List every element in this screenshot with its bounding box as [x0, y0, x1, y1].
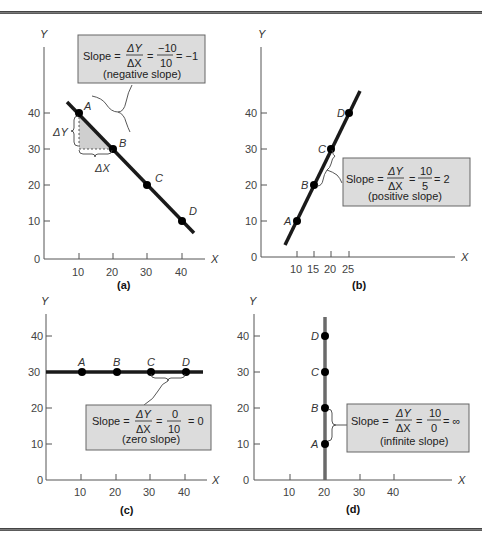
panel-caption: (b): [352, 279, 366, 291]
svg-text:Slope =: Slope =: [83, 50, 121, 62]
negative-slope-line: [67, 102, 194, 233]
svg-text:A: A: [83, 100, 91, 112]
svg-text:D: D: [337, 107, 345, 119]
x-axis-label: X: [211, 474, 220, 486]
svg-text:= 0: = 0: [188, 415, 204, 427]
svg-text:20: 20: [324, 263, 336, 275]
svg-text:D: D: [311, 330, 319, 342]
y-ticks: 40 30 20 10 0: [28, 107, 50, 265]
svg-text:=: =: [156, 415, 162, 427]
svg-text:20: 20: [318, 486, 330, 498]
x-axis-label: X: [210, 253, 219, 265]
svg-text:ΔY: ΔY: [126, 42, 142, 54]
y-axis-label: Y: [258, 28, 266, 40]
svg-text:ΔY: ΔY: [135, 408, 151, 420]
x-ticks: 10 20 30 40: [283, 474, 399, 498]
svg-text:(zero slope): (zero slope): [122, 433, 180, 445]
callout-brace: [92, 85, 132, 132]
svg-text:= −1: = −1: [176, 50, 198, 62]
svg-text:30: 30: [237, 366, 249, 378]
svg-text:10: 10: [72, 266, 84, 278]
delta-x-brace: [79, 150, 112, 157]
svg-text:C: C: [318, 143, 326, 155]
svg-text:C: C: [147, 356, 155, 368]
svg-text:10: 10: [28, 215, 40, 227]
panel-c: Y X 40 30 20 10 0 10 20 30 40 (c) A B C …: [28, 295, 220, 516]
svg-text:(positive slope): (positive slope): [368, 190, 442, 202]
svg-text:10: 10: [429, 407, 441, 419]
panel-caption: (d): [346, 503, 360, 515]
slope-box: Slope = ΔY ΔX = −10 10 = −1 (negative sl…: [78, 35, 205, 83]
svg-text:10: 10: [31, 438, 43, 450]
delta-x-label: ΔX: [94, 162, 110, 174]
x-ticks: 10 20 30 40: [74, 474, 190, 498]
svg-text:D: D: [189, 205, 197, 217]
svg-text:40: 40: [31, 330, 43, 342]
svg-text:C: C: [155, 172, 163, 184]
panel-a: Y X 40 30 20 10 0 10 20 30 40 (a) A: [28, 28, 219, 291]
svg-text:30: 30: [353, 486, 365, 498]
svg-text:= 2: = 2: [434, 173, 450, 185]
callout-brace: [328, 409, 348, 441]
y-axis-label: Y: [40, 28, 48, 40]
svg-text:= ∞: = ∞: [443, 415, 460, 427]
svg-text:40: 40: [387, 486, 399, 498]
svg-text:10: 10: [74, 486, 86, 498]
svg-text:B: B: [113, 356, 120, 368]
svg-text:20: 20: [245, 179, 257, 191]
x-axis-label: X: [457, 474, 466, 486]
svg-text:A: A: [77, 356, 85, 368]
svg-text:10: 10: [237, 438, 249, 450]
callout-brace: [144, 374, 185, 405]
svg-text:15: 15: [307, 263, 319, 275]
svg-text:40: 40: [175, 266, 187, 278]
svg-text:ΔY: ΔY: [387, 165, 403, 177]
y-ticks: 40 30 20 10 0: [245, 107, 267, 263]
svg-text:(infinite slope): (infinite slope): [380, 435, 448, 447]
y-ticks: 40 30 20 10 0: [237, 330, 260, 486]
svg-text:30: 30: [140, 266, 152, 278]
panel-d: Y X 40 30 20 10 0 10 20 30 40 (d) A B C …: [237, 295, 469, 515]
y-axis-label: Y: [41, 295, 49, 307]
svg-text:A: A: [310, 438, 318, 450]
svg-text:0: 0: [37, 474, 43, 486]
svg-text:B: B: [119, 137, 126, 149]
slope-diagram: Y X 40 30 20 10 0 10 20 30 40 (a) A: [0, 0, 493, 543]
svg-text:0: 0: [172, 408, 178, 420]
y-axis-label: Y: [249, 295, 257, 307]
svg-text:0: 0: [243, 474, 249, 486]
svg-text:10: 10: [290, 263, 302, 275]
svg-text:10: 10: [245, 215, 257, 227]
svg-text:ΔX: ΔX: [396, 422, 411, 434]
svg-text:20: 20: [31, 402, 43, 414]
panel-caption: (c): [120, 504, 134, 516]
y-ticks: 40 30 20 10 0: [28, 330, 52, 486]
data-points: A B C D: [75, 100, 197, 225]
svg-text:=: =: [147, 50, 153, 62]
delta-y-brace: [71, 116, 78, 146]
x-axis-label: X: [460, 251, 469, 263]
svg-text:B: B: [301, 179, 308, 191]
svg-text:0: 0: [431, 422, 437, 434]
svg-text:30: 30: [28, 143, 40, 155]
svg-text:ΔY: ΔY: [395, 407, 411, 419]
svg-text:0: 0: [251, 251, 257, 263]
x-ticks: 10 20 30 40: [72, 253, 187, 278]
svg-text:B: B: [311, 402, 318, 414]
delta-y-label: ΔY: [52, 126, 68, 138]
svg-text:D: D: [182, 356, 190, 368]
svg-text:10: 10: [283, 486, 295, 498]
panel-caption: (a): [117, 279, 131, 291]
slope-box: Slope = ΔY ΔX = 10 5 = 2 (positive slope…: [343, 158, 470, 206]
svg-text:40: 40: [237, 330, 249, 342]
svg-text:Slope =: Slope =: [351, 415, 389, 427]
slope-box: Slope = ΔY ΔX = 0 10 = 0 (zero slope): [86, 405, 211, 450]
svg-text:20: 20: [28, 179, 40, 191]
svg-text:25: 25: [342, 263, 354, 275]
svg-text:40: 40: [28, 107, 40, 119]
svg-text:40: 40: [178, 486, 190, 498]
svg-text:(negative slope): (negative slope): [103, 68, 181, 80]
svg-text:−10: −10: [158, 42, 177, 54]
panel-b: Y X 40 30 20 10 0 10 15 20 25 (b) A B C …: [245, 28, 470, 291]
svg-text:30: 30: [143, 486, 155, 498]
